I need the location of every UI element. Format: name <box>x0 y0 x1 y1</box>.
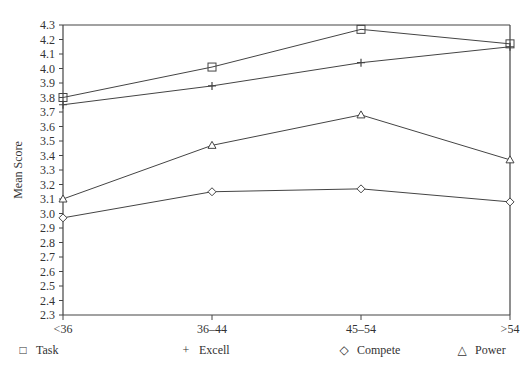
series-excell <box>59 43 514 109</box>
legend-label: Compete <box>357 343 400 357</box>
x-axis: <3636–4445–54>54 <box>54 315 520 336</box>
y-tick-label: 4.1 <box>40 47 55 61</box>
y-tick-label: 2.4 <box>40 294 55 308</box>
y-tick-label: 2.7 <box>40 250 55 264</box>
y-tick-label: 3.8 <box>40 91 55 105</box>
triangle-marker-icon: △ <box>455 343 469 358</box>
series-compete <box>59 185 514 222</box>
legend-item-power: △Power <box>455 343 506 358</box>
legend-label: Excell <box>199 343 230 357</box>
y-tick-label: 3.2 <box>40 178 55 192</box>
y-tick-label: 2.6 <box>40 265 55 279</box>
y-axis-title: Mean Score <box>11 141 25 199</box>
y-tick-label: 3.3 <box>40 163 55 177</box>
diamond-marker-icon <box>506 198 514 206</box>
x-tick-label: >54 <box>501 322 520 336</box>
x-axis-title: Age Group <box>259 337 313 340</box>
y-tick-label: 3.1 <box>40 192 55 206</box>
diamond-marker-icon <box>59 214 67 222</box>
series-line <box>63 29 510 97</box>
y-tick-label: 3.7 <box>40 105 55 119</box>
series-power <box>59 111 514 202</box>
diamond-marker-icon: ◇ <box>337 343 351 358</box>
series-line <box>63 189 510 218</box>
series-line <box>63 47 510 105</box>
triangle-marker-icon <box>357 111 365 118</box>
y-axis: 4.34.24.14.03.93.83.73.63.53.43.33.23.13… <box>40 18 63 322</box>
y-tick-label: 4.0 <box>40 62 55 76</box>
plot-frame <box>63 25 510 315</box>
square-marker-icon: □ <box>16 343 30 358</box>
y-tick-label: 4.3 <box>40 18 55 32</box>
y-tick-label: 4.2 <box>40 33 55 47</box>
legend-item-excell: +Excell <box>179 343 230 358</box>
series-line <box>63 115 510 199</box>
y-tick-label: 3.4 <box>40 149 55 163</box>
series-lines <box>59 25 514 222</box>
y-tick-label: 2.9 <box>40 221 55 235</box>
x-tick-label: 36–44 <box>197 322 227 336</box>
y-tick-label: 2.5 <box>40 279 55 293</box>
legend-item-compete: ◇Compete <box>337 343 400 358</box>
series-task <box>59 25 514 101</box>
y-tick-label: 2.8 <box>40 236 55 250</box>
y-tick-label: 3.0 <box>40 207 55 221</box>
y-tick-label: 3.6 <box>40 120 55 134</box>
legend-label: Task <box>36 343 59 357</box>
plus-marker-icon <box>357 59 365 67</box>
diamond-marker-icon <box>208 188 216 196</box>
y-tick-label: 3.5 <box>40 134 55 148</box>
x-tick-label: <36 <box>54 322 73 336</box>
legend-item-task: □Task <box>16 343 59 358</box>
legend-label: Power <box>475 343 506 357</box>
line-chart: 4.34.24.14.03.93.83.73.63.53.43.33.23.13… <box>0 0 530 340</box>
y-tick-label: 3.9 <box>40 76 55 90</box>
y-tick-label: 2.3 <box>40 308 55 322</box>
x-tick-label: 45–54 <box>346 322 376 336</box>
plus-marker-icon <box>208 82 216 90</box>
diamond-marker-icon <box>357 185 365 193</box>
chart-legend: □Task +Excell ◇Compete △Power <box>0 343 530 363</box>
plus-marker-icon: + <box>179 343 193 358</box>
